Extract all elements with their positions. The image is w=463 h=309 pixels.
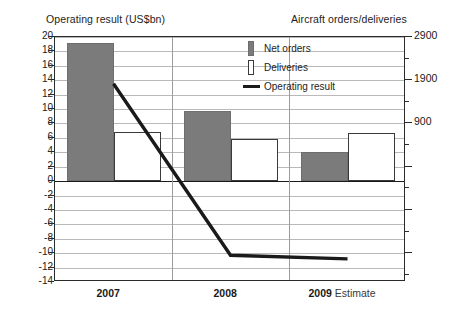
legend-label-operating-result: Operating result	[264, 81, 335, 92]
right-axis-title: Aircraft orders/deliveries	[291, 13, 407, 25]
black-line-swatch-icon	[238, 85, 264, 88]
legend-item-deliveries: Deliveries	[238, 58, 399, 77]
right-axis-tick-mark	[405, 144, 409, 145]
right-axis-tick-mark	[405, 166, 412, 167]
right-axis-tick-mark	[405, 101, 409, 102]
x-axis-tick-label: 2009 Estimate	[309, 287, 376, 299]
right-axis-tick-mark	[405, 187, 409, 188]
right-axis-tick-label: 900	[414, 116, 432, 127]
x-axis-tick-label: 2007	[97, 287, 120, 299]
gray-bar-swatch-icon	[238, 41, 264, 56]
right-axis-tick-label: 2900	[414, 30, 437, 41]
legend-item-operating-result: Operating result	[238, 77, 399, 96]
chart-legend: Net orders Deliveries Operating result	[238, 37, 399, 99]
right-axis-tick-mark	[405, 58, 409, 59]
left-axis-tick-mark	[48, 281, 54, 282]
left-axis-title: Operating result (US$bn)	[46, 13, 165, 25]
right-axis-tick-mark	[405, 209, 412, 210]
legend-label-deliveries: Deliveries	[264, 62, 308, 73]
right-axis-tick-mark	[405, 79, 412, 80]
legend-label-net-orders: Net orders	[264, 43, 311, 54]
chart-figure: Operating result (US$bn) Aircraft orders…	[0, 0, 463, 309]
right-axis-tick-label: 1900	[414, 73, 437, 84]
right-axis-tick-mark	[405, 274, 409, 275]
right-axis-tick-mark	[405, 252, 412, 253]
x-axis-tick-label: 2008	[214, 287, 237, 299]
right-axis-tick-mark	[405, 36, 412, 37]
right-axis-tick-mark	[405, 231, 409, 232]
legend-item-net-orders: Net orders	[238, 39, 399, 58]
right-axis-tick-mark	[405, 122, 412, 123]
white-bar-swatch-icon	[238, 60, 264, 75]
